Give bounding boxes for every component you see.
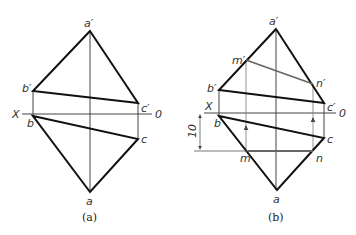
descriptive-geometry-figure: a′ b′ c′ X 0 b c a (a) 10 a′ m′ n′ b′ c′… — [0, 0, 356, 235]
label-o: 0 — [155, 108, 162, 121]
label-a: a — [273, 193, 280, 206]
label-x: X — [11, 108, 20, 121]
panel-a: a′ b′ c′ X 0 b c a (a) — [11, 17, 162, 224]
label-b: b — [27, 117, 34, 130]
label-x: X — [204, 100, 213, 113]
label-m-prime: m′ — [232, 54, 246, 67]
label-c-prime: c′ — [141, 102, 150, 115]
dimension-value: 10 — [186, 124, 199, 138]
panel-b: 10 a′ m′ n′ b′ c′ X 0 b c m n a (b) — [186, 15, 346, 224]
label-n: n — [316, 152, 323, 165]
caption-b: (b) — [268, 211, 284, 224]
top-view-triangle — [33, 116, 138, 192]
label-n-prime: n′ — [316, 77, 326, 90]
label-b: b — [214, 117, 221, 130]
front-view-triangle — [33, 31, 138, 103]
label-c: c — [141, 133, 147, 146]
label-b-prime: b′ — [22, 82, 32, 95]
label-b-prime: b′ — [207, 82, 217, 95]
caption-a: (a) — [82, 211, 97, 224]
top-view-triangle — [219, 116, 324, 190]
label-a: a — [86, 195, 93, 208]
label-c: c — [327, 133, 333, 146]
label-a-prime: a′ — [269, 15, 279, 28]
label-m: m — [240, 152, 251, 165]
label-o: 0 — [339, 107, 346, 120]
label-c-prime: c′ — [327, 101, 336, 114]
label-a-prime: a′ — [84, 17, 94, 30]
